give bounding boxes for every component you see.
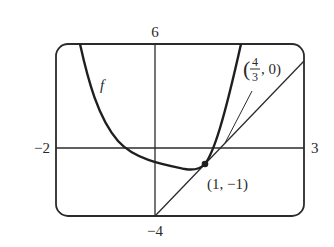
intercept-open-paren: ( [243, 56, 250, 81]
tangent-point-label: (1, −1) [207, 176, 248, 193]
curve-f-label: f [100, 77, 106, 93]
tangent-point [202, 161, 209, 168]
x-min-label: −2 [34, 140, 50, 156]
intercept-rest: , 0) [261, 61, 281, 78]
tangent-line [155, 61, 304, 216]
y-min-label: −4 [147, 223, 163, 239]
y-max-label: 6 [151, 24, 159, 40]
graph: 6 −4 −2 3 f (1, −1) ( 4 3 , 0) [0, 0, 334, 247]
x-max-label: 3 [311, 140, 319, 156]
intercept-label: ( 4 3 , 0) [243, 55, 281, 84]
intercept-denominator: 3 [252, 70, 258, 84]
intercept-numerator: 4 [252, 55, 258, 69]
